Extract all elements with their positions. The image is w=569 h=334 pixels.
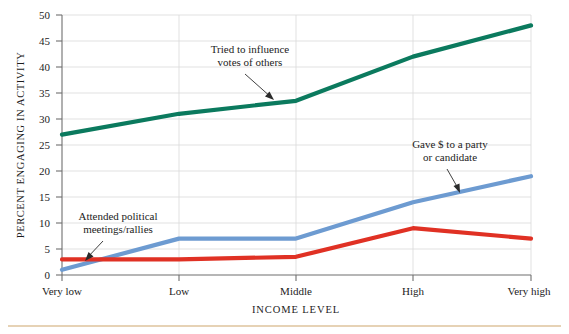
- annotation-influence-line2: votes of others: [218, 56, 283, 68]
- line-chart: 50 45 40 35 30 25 20 15 10 5 0 Very low …: [0, 0, 569, 334]
- x-tick-marks: [62, 275, 531, 281]
- x-tick-label-very-high: Very high: [507, 285, 551, 297]
- y-tick-label-15: 15: [39, 191, 51, 203]
- footer-divider: [8, 325, 561, 327]
- annotation-influence: Tried to influence votes of others: [211, 43, 290, 100]
- y-tick-label-20: 20: [39, 165, 51, 177]
- y-tick-label-5: 5: [45, 243, 51, 255]
- annotation-gave-money-line1: Gave $ to a party: [412, 138, 488, 150]
- x-tick-labels: Very low Low Middle High Very high: [42, 285, 551, 297]
- x-tick-label-high: High: [402, 285, 425, 297]
- series-line-influence: [62, 25, 531, 134]
- annotation-gave-money: Gave $ to a party or candidate: [412, 138, 488, 193]
- annotation-attended-line2: meetings/rallies: [83, 223, 153, 235]
- x-tick-label-very-low: Very low: [42, 285, 82, 297]
- x-axis-title: INCOME LEVEL: [252, 304, 340, 315]
- y-tick-label-35: 35: [39, 87, 51, 99]
- y-tick-label-10: 10: [39, 217, 51, 229]
- x-tick-label-low: Low: [169, 285, 189, 297]
- annotation-attended-line1: Attended political: [78, 210, 157, 222]
- annotation-gave-money-line2: or candidate: [423, 151, 477, 163]
- y-tick-labels: 50 45 40 35 30 25 20 15 10 5 0: [39, 9, 51, 281]
- y-tick-label-30: 30: [39, 113, 51, 125]
- x-tick-label-middle: Middle: [280, 285, 312, 297]
- y-tick-label-40: 40: [39, 61, 51, 73]
- y-tick-label-0: 0: [45, 269, 51, 281]
- annotation-influence-line1: Tried to influence: [211, 43, 290, 55]
- y-axis-title: PERCENT ENGAGING IN ACTIVITY: [15, 52, 26, 239]
- y-tick-marks: [56, 15, 62, 275]
- y-tick-label-45: 45: [39, 35, 51, 47]
- chart-figure: 50 45 40 35 30 25 20 15 10 5 0 Very low …: [0, 0, 569, 334]
- y-tick-label-25: 25: [39, 139, 51, 151]
- y-tick-label-50: 50: [39, 9, 51, 21]
